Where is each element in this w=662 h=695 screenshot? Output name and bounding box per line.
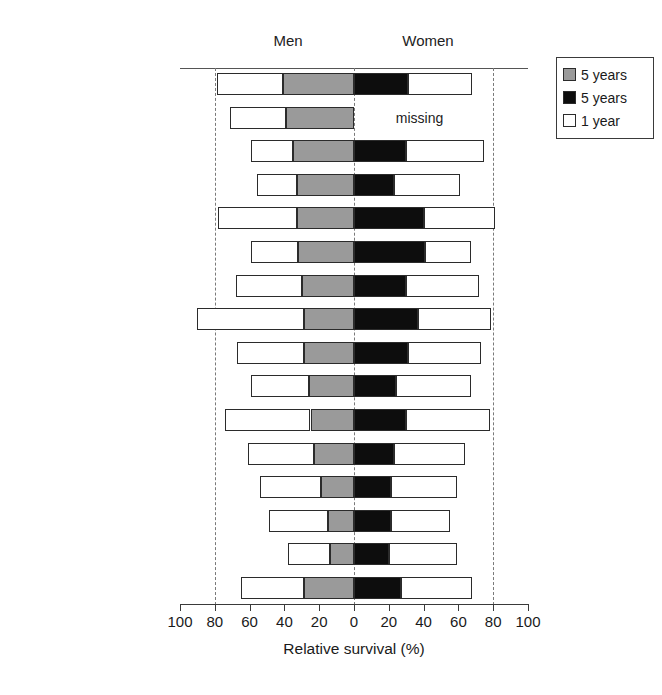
axis-tick bbox=[493, 604, 494, 611]
men-1-year-segment bbox=[230, 107, 286, 129]
women-5-years-segment bbox=[354, 476, 391, 498]
women-1-year-segment bbox=[406, 275, 479, 297]
women-5-years-segment bbox=[354, 577, 401, 599]
men-5-years-segment bbox=[304, 308, 354, 330]
legend-label: 5 years bbox=[581, 90, 627, 106]
women-1-year-segment bbox=[391, 510, 450, 532]
men-1-year-segment bbox=[218, 207, 296, 229]
chart-row: England bbox=[180, 471, 528, 505]
white-swatch bbox=[563, 114, 576, 127]
gray-swatch bbox=[563, 68, 576, 81]
relative-survival-chart: Men Women SpainIcelandmissingAustriaGerm… bbox=[0, 0, 662, 695]
women-1-year-segment bbox=[401, 577, 472, 599]
axis-tick bbox=[284, 604, 285, 611]
women-5-years-segment bbox=[354, 241, 425, 263]
women-5-years-segment bbox=[354, 140, 406, 162]
axis-tick bbox=[319, 604, 320, 611]
chart-row: Spain bbox=[180, 68, 528, 102]
women-5-years-segment bbox=[354, 308, 418, 330]
legend-item: 1 year bbox=[563, 109, 647, 132]
women-1-year-segment bbox=[425, 241, 470, 263]
women-5-years-segment bbox=[354, 510, 391, 532]
chart-row: Denmark bbox=[180, 438, 528, 472]
men-1-year-segment bbox=[251, 375, 308, 397]
men-5-years-segment bbox=[321, 476, 354, 498]
axis-tick bbox=[180, 604, 181, 611]
men-5-years-segment bbox=[311, 409, 355, 431]
plot-area: SpainIcelandmissingAustriaGermanySwedenS… bbox=[180, 68, 528, 604]
men-1-year-segment bbox=[251, 241, 298, 263]
men-5-years-segment bbox=[298, 241, 354, 263]
axis-tick bbox=[424, 604, 425, 611]
chart-row: Slovenia bbox=[180, 370, 528, 404]
men-1-year-segment bbox=[260, 476, 321, 498]
women-5-years-segment bbox=[354, 342, 408, 364]
axis-tick-label: 100 bbox=[508, 613, 548, 630]
women-1-year-segment bbox=[394, 443, 465, 465]
men-5-years-segment bbox=[304, 577, 354, 599]
chart-row: Austria bbox=[180, 135, 528, 169]
women-1-year-segment bbox=[391, 476, 457, 498]
men-5-years-segment bbox=[309, 375, 354, 397]
black-swatch bbox=[563, 91, 576, 104]
women-1-year-segment bbox=[394, 174, 460, 196]
legend-label: 5 years bbox=[581, 67, 627, 83]
chart-row: Scotland bbox=[180, 505, 528, 539]
women-5-years-segment bbox=[354, 174, 394, 196]
women-5-years-segment bbox=[354, 207, 424, 229]
men-5-years-segment bbox=[304, 342, 354, 364]
axis-tick bbox=[528, 604, 529, 611]
men-5-years-segment bbox=[328, 510, 354, 532]
women-1-year-segment bbox=[396, 375, 471, 397]
women-5-years-segment bbox=[354, 543, 389, 565]
women-5-years-segment bbox=[354, 443, 394, 465]
women-1-year-segment bbox=[406, 140, 484, 162]
women-5-years-segment bbox=[354, 275, 406, 297]
men-5-years-segment bbox=[293, 140, 354, 162]
men-1-year-segment bbox=[251, 140, 293, 162]
women-5-years-segment bbox=[354, 409, 406, 431]
chart-row: Europe bbox=[180, 572, 528, 606]
men-1-year-segment bbox=[269, 510, 328, 532]
legend-item: 5 years bbox=[563, 63, 647, 86]
chart-row: Sweden bbox=[180, 202, 528, 236]
men-1-year-segment bbox=[237, 342, 303, 364]
men-panel-header: Men bbox=[258, 32, 318, 49]
men-1-year-segment bbox=[236, 275, 302, 297]
men-1-year-segment bbox=[217, 73, 283, 95]
axis-tick bbox=[458, 604, 459, 611]
chart-row: Switzerland bbox=[180, 303, 528, 337]
men-1-year-segment bbox=[197, 308, 303, 330]
men-5-years-segment bbox=[283, 73, 354, 95]
x-axis-title: Relative survival (%) bbox=[180, 640, 528, 658]
women-1-year-segment bbox=[408, 342, 481, 364]
women-5-years-segment bbox=[354, 375, 396, 397]
women-1-year-segment bbox=[418, 308, 491, 330]
men-5-years-segment bbox=[330, 543, 354, 565]
legend: 5 years5 years1 year bbox=[556, 57, 654, 139]
chart-row: Germany bbox=[180, 169, 528, 203]
men-1-year-segment bbox=[288, 543, 330, 565]
chart-row: Icelandmissing bbox=[180, 102, 528, 136]
axis-tick bbox=[354, 604, 355, 611]
chart-row: Italy bbox=[180, 270, 528, 304]
axis-tick bbox=[389, 604, 390, 611]
axis-tick bbox=[215, 604, 216, 611]
chart-row: Estonia bbox=[180, 538, 528, 572]
men-1-year-segment bbox=[225, 409, 310, 431]
men-5-years-segment bbox=[297, 207, 354, 229]
men-1-year-segment bbox=[248, 443, 314, 465]
axis-tick bbox=[250, 604, 251, 611]
women-5-years-segment bbox=[354, 73, 408, 95]
missing-data-label: missing bbox=[396, 110, 443, 126]
chart-row: Finland bbox=[180, 337, 528, 371]
chart-row: The Netherlands bbox=[180, 404, 528, 438]
men-5-years-segment bbox=[286, 107, 354, 129]
legend-label: 1 year bbox=[581, 113, 620, 129]
chart-row: Slovakia bbox=[180, 236, 528, 270]
men-1-year-segment bbox=[257, 174, 297, 196]
women-1-year-segment bbox=[408, 73, 472, 95]
women-panel-header: Women bbox=[392, 32, 464, 49]
men-5-years-segment bbox=[302, 275, 354, 297]
women-1-year-segment bbox=[406, 409, 490, 431]
